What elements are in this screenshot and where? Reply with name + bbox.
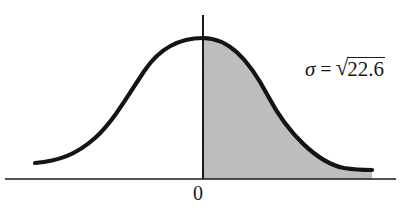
origin-tick-label: 0 (193, 183, 203, 203)
radicand-value: 22.6 (347, 57, 385, 80)
normal-curve-figure: σ = √ 22.6 0 (0, 0, 403, 210)
equals-symbol: = (318, 59, 335, 79)
radical-icon: √ (336, 56, 349, 79)
sigma-value-annotation: σ = √ 22.6 (305, 57, 385, 80)
shaded-right-tail-region (200, 30, 378, 184)
sigma-symbol: σ (305, 59, 318, 80)
square-root-expression: √ 22.6 (336, 57, 385, 80)
normal-curve-plot (0, 0, 403, 210)
